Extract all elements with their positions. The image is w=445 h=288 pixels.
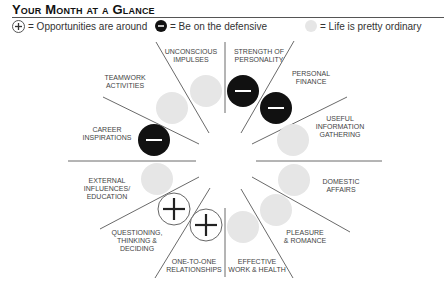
unconscious-circle <box>190 75 222 107</box>
label-relationships: One-to-OneRelationships <box>166 258 222 274</box>
label-strength: Strength ofPersonality <box>234 48 284 64</box>
questioning-circle <box>158 193 190 225</box>
label-questioning: Questioning,Thinking &Deciding <box>112 229 163 254</box>
strength-circle <box>227 75 259 107</box>
label-finance: PersonalFinance <box>292 70 330 86</box>
finance-circle <box>260 92 292 124</box>
label-pleasure: Pleasure& Romance <box>284 229 326 245</box>
month-wheel <box>0 0 445 288</box>
relationships-circle <box>190 209 222 241</box>
label-career: CareerInspirations <box>83 126 132 142</box>
domestic-circle <box>278 164 310 196</box>
info-circle <box>277 124 309 156</box>
label-teamwork: TeamworkActivities <box>104 74 145 90</box>
label-domestic: DomesticAffairs <box>323 178 360 194</box>
label-external: ExternalInfluences/Education <box>84 177 130 202</box>
label-work: EffectiveWork & Health <box>228 258 285 274</box>
label-unconscious: UnconsciousImpulses <box>165 48 218 64</box>
external-circle <box>141 163 173 195</box>
work-circle <box>227 211 259 243</box>
label-info: UsefulInformationGathering <box>316 115 364 140</box>
pleasure-circle <box>260 194 292 226</box>
teamwork-circle <box>156 92 188 124</box>
career-circle <box>138 124 170 156</box>
